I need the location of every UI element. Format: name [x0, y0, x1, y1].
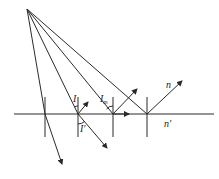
angle-arc-I: [75, 106, 79, 107]
label-n-prime: n′: [164, 118, 172, 129]
refracted-ray-1: [45, 114, 62, 164]
label-I-prime: I′: [79, 123, 86, 134]
label-Im: Im: [99, 93, 108, 105]
incident-ray-1: [27, 9, 45, 114]
angle-arc-Im: [107, 106, 114, 109]
refraction-diagram: I I′ Im n n′: [0, 0, 219, 179]
reflected-ray-4: [147, 81, 182, 114]
label-I: I: [72, 93, 77, 104]
label-n: n: [166, 79, 171, 90]
reflected-ray-2: [78, 102, 88, 114]
